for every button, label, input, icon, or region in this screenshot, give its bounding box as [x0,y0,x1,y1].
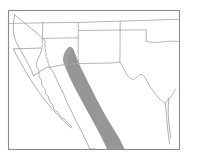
boundary-colorado-new-mexico [78,30,120,31]
map-canvas [0,0,197,161]
map-figure: Southwestern United States and Northwest… [0,0,197,161]
